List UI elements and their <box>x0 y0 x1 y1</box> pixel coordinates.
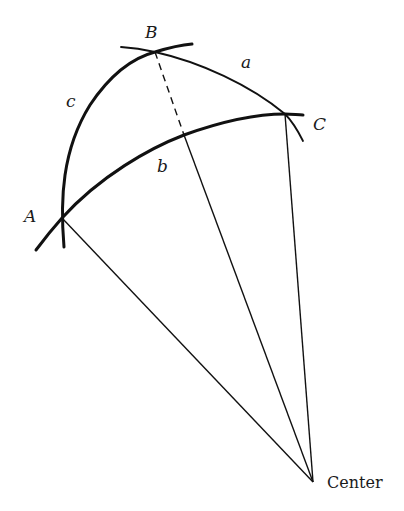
radius-c <box>285 114 313 482</box>
label-a-vertex: A <box>22 206 36 226</box>
radius-b-solid <box>184 135 313 482</box>
label-c-vertex: C <box>313 114 326 134</box>
label-center: Center <box>327 473 383 492</box>
arc-c <box>62 44 192 247</box>
label-b-vertex: B <box>144 22 158 42</box>
radius-a <box>62 218 313 482</box>
label-side-a: a <box>241 52 251 72</box>
label-side-b: b <box>157 156 168 176</box>
label-side-c: c <box>66 91 76 111</box>
spherical-triangle-diagram: B C A a b c Center <box>0 0 404 511</box>
radius-b-dashed <box>155 52 184 135</box>
